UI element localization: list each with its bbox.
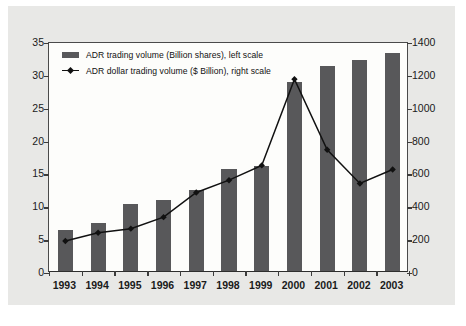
x-tick-11 <box>409 271 410 276</box>
left-tick-15 <box>44 174 49 175</box>
marker-1994 <box>95 230 101 236</box>
right-tick-label-1400: 1400 <box>412 36 435 48</box>
right-axis: 0200400600800100012001400 <box>412 42 460 272</box>
x-tick-label-1996: 1996 <box>151 279 174 291</box>
left-tick-label-20: 20 <box>6 135 44 147</box>
left-tick-label-35: 35 <box>6 36 44 48</box>
left-tick-5 <box>44 240 49 241</box>
right-tick-label-400: 400 <box>412 200 430 212</box>
left-tick-label-25: 25 <box>6 102 44 114</box>
right-tick-label-0: 0 <box>412 266 418 278</box>
legend-label-bar: ADR trading volume (Billion shares), lef… <box>86 50 263 60</box>
right-tick-label-800: 800 <box>412 135 430 147</box>
category-axis: 1993199419951996199719981999200020012002… <box>48 275 408 293</box>
chart-legend: ADR trading volume (Billion shares), lef… <box>62 48 302 80</box>
x-tick-label-1999: 1999 <box>249 279 272 291</box>
left-tick-10 <box>44 207 49 208</box>
left-tick-label-15: 15 <box>6 167 44 179</box>
left-tick-35 <box>44 43 49 44</box>
x-tick-label-2001: 2001 <box>314 279 337 291</box>
right-tick-label-600: 600 <box>412 167 430 179</box>
marker-2003 <box>389 166 395 172</box>
left-tick-25 <box>44 109 49 110</box>
left-tick-30 <box>44 76 49 77</box>
x-tick-label-1994: 1994 <box>85 279 108 291</box>
marker-1993 <box>62 238 68 244</box>
chart-figure: 05101520253035 0200400600800100012001400… <box>0 0 466 326</box>
bar-swatch-icon <box>62 52 79 58</box>
legend-item-bar: ADR trading volume (Billion shares), lef… <box>62 48 302 61</box>
x-tick-label-2003: 2003 <box>380 279 403 291</box>
x-tick-label-1998: 1998 <box>216 279 239 291</box>
x-tick-label-1997: 1997 <box>184 279 207 291</box>
left-tick-label-0: 0 <box>6 266 44 278</box>
right-tick-label-1200: 1200 <box>412 69 435 81</box>
right-tick-label-1000: 1000 <box>412 102 435 114</box>
left-tick-label-5: 5 <box>6 233 44 245</box>
x-tick-label-1995: 1995 <box>118 279 141 291</box>
left-tick-label-10: 10 <box>6 200 44 212</box>
marker-1998 <box>226 177 232 183</box>
left-tick-20 <box>44 142 49 143</box>
x-tick-label-1993: 1993 <box>53 279 76 291</box>
x-tick-label-2000: 2000 <box>282 279 305 291</box>
left-tick-label-30: 30 <box>6 69 44 81</box>
line-path <box>65 79 392 241</box>
line-diamond-icon <box>62 67 79 74</box>
left-axis: 05101520253035 <box>0 42 44 272</box>
marker-1995 <box>128 225 134 231</box>
legend-label-line: ADR dollar trading volume ($ Billion), r… <box>86 66 271 76</box>
right-tick-label-200: 200 <box>412 233 430 245</box>
legend-item-line: ADR dollar trading volume ($ Billion), r… <box>62 64 302 77</box>
marker-1999 <box>259 162 265 168</box>
x-tick-label-2002: 2002 <box>347 279 370 291</box>
